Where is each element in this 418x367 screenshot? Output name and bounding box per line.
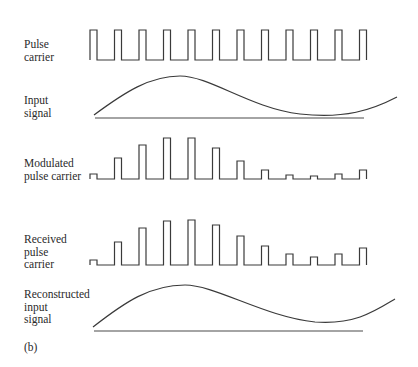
modulated-pulse-waveform bbox=[90, 138, 367, 179]
waveforms-diagram bbox=[0, 0, 418, 367]
reconstructed-signal-curve bbox=[93, 285, 395, 327]
input-signal-curve bbox=[94, 76, 397, 115]
received-pulse-waveform bbox=[90, 220, 367, 265]
pulse-carrier-waveform bbox=[90, 30, 367, 60]
